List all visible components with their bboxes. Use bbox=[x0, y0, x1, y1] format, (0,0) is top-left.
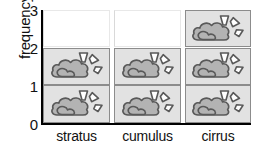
y-tick-2: 2 bbox=[22, 41, 38, 56]
cell-cirrus-1 bbox=[185, 85, 251, 122]
x-axis-labels: stratus cumulus cirrus bbox=[43, 128, 251, 150]
cell-cumulus-3 bbox=[114, 10, 181, 47]
y-axis-ticks: 3 2 1 0 bbox=[18, 0, 38, 159]
pictogram-chart: frequency 3 2 1 0 bbox=[0, 0, 256, 159]
cloud-with-sun-icon bbox=[120, 51, 176, 82]
cloud-with-sun-icon bbox=[190, 51, 246, 82]
column-cirrus bbox=[185, 10, 251, 123]
cell-cirrus-2 bbox=[185, 48, 251, 85]
x-axis-line bbox=[41, 123, 251, 125]
cloud-with-sun-icon bbox=[190, 89, 246, 120]
y-tick-3: 3 bbox=[22, 3, 38, 18]
x-label-stratus: stratus bbox=[43, 128, 110, 144]
cloud-with-sun-icon bbox=[49, 89, 105, 120]
cell-stratus-2 bbox=[43, 48, 110, 85]
cell-cumulus-1 bbox=[114, 85, 181, 122]
column-cumulus bbox=[114, 10, 181, 123]
x-label-cumulus: cumulus bbox=[114, 128, 181, 144]
column-stratus bbox=[43, 10, 110, 123]
x-label-cirrus: cirrus bbox=[185, 128, 251, 144]
y-tick-1: 1 bbox=[22, 79, 38, 94]
cloud-with-sun-icon bbox=[49, 51, 105, 82]
cloud-with-sun-icon bbox=[120, 89, 176, 120]
cell-stratus-1 bbox=[43, 85, 110, 122]
cloud-with-sun-icon bbox=[190, 13, 246, 44]
plot-area bbox=[43, 10, 251, 123]
y-tick-0: 0 bbox=[22, 117, 38, 132]
cell-cirrus-3 bbox=[185, 10, 251, 47]
cell-stratus-3 bbox=[43, 10, 110, 47]
cell-cumulus-2 bbox=[114, 48, 181, 85]
